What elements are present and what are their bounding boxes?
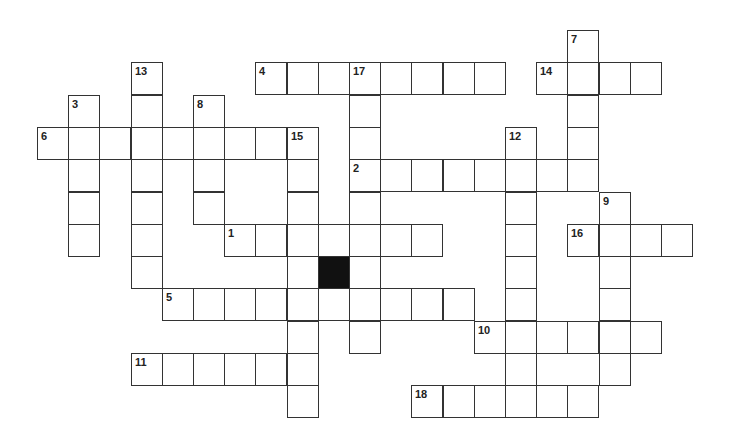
letter-input[interactable] — [506, 322, 536, 353]
grid-cell[interactable] — [318, 224, 350, 257]
letter-input[interactable] — [506, 257, 536, 288]
letter-input[interactable] — [288, 128, 318, 159]
letter-input[interactable] — [412, 63, 442, 94]
grid-cell[interactable] — [287, 353, 319, 386]
letter-input[interactable] — [600, 225, 630, 256]
grid-cell[interactable] — [68, 192, 100, 225]
grid-cell[interactable] — [599, 321, 631, 354]
letter-input[interactable] — [412, 289, 442, 320]
grid-cell[interactable] — [505, 256, 537, 289]
letter-input[interactable] — [506, 160, 536, 191]
letter-input[interactable] — [132, 225, 162, 256]
grid-cell[interactable]: 15 — [287, 127, 319, 160]
grid-cell[interactable] — [411, 224, 443, 257]
grid-cell[interactable] — [411, 62, 443, 95]
letter-input[interactable] — [506, 289, 536, 320]
grid-cell[interactable] — [131, 127, 163, 160]
letter-input[interactable] — [288, 63, 318, 94]
letter-input[interactable] — [132, 128, 162, 159]
grid-cell[interactable] — [536, 321, 568, 354]
grid-cell[interactable] — [349, 224, 381, 257]
letter-input[interactable] — [350, 257, 380, 288]
letter-input[interactable] — [256, 289, 286, 320]
grid-cell[interactable] — [443, 159, 475, 192]
letter-input[interactable] — [350, 225, 380, 256]
letter-input[interactable] — [100, 128, 130, 159]
grid-cell[interactable] — [505, 192, 537, 225]
grid-cell[interactable] — [255, 353, 287, 386]
grid-cell[interactable]: 14 — [536, 62, 568, 95]
grid-cell[interactable]: 12 — [505, 127, 537, 160]
letter-input[interactable] — [600, 257, 630, 288]
letter-input[interactable] — [600, 322, 630, 353]
grid-cell[interactable]: 4 — [255, 62, 287, 95]
letter-input[interactable] — [412, 160, 442, 191]
letter-input[interactable] — [444, 386, 474, 417]
grid-cell[interactable]: 17 — [349, 62, 381, 95]
letter-input[interactable] — [225, 128, 255, 159]
letter-input[interactable] — [506, 386, 536, 417]
letter-input[interactable] — [288, 386, 318, 417]
grid-cell[interactable] — [318, 62, 350, 95]
letter-input[interactable] — [444, 289, 474, 320]
letter-input[interactable] — [350, 160, 380, 191]
grid-cell[interactable] — [411, 159, 443, 192]
grid-cell[interactable] — [193, 159, 225, 192]
letter-input[interactable] — [38, 128, 68, 159]
letter-input[interactable] — [444, 160, 474, 191]
letter-input[interactable] — [288, 257, 318, 288]
letter-input[interactable] — [194, 354, 224, 385]
grid-cell[interactable] — [131, 159, 163, 192]
grid-cell[interactable] — [287, 192, 319, 225]
letter-input[interactable] — [163, 354, 193, 385]
letter-input[interactable] — [350, 322, 380, 353]
grid-cell[interactable] — [193, 288, 225, 321]
letter-input[interactable] — [475, 160, 505, 191]
grid-cell[interactable] — [380, 159, 412, 192]
letter-input[interactable] — [568, 96, 598, 127]
grid-cell[interactable] — [131, 192, 163, 225]
letter-input[interactable] — [225, 354, 255, 385]
letter-input[interactable] — [475, 322, 505, 353]
letter-input[interactable] — [537, 322, 567, 353]
grid-cell[interactable] — [162, 127, 194, 160]
letter-input[interactable] — [194, 128, 224, 159]
grid-cell[interactable] — [630, 321, 662, 354]
grid-cell[interactable] — [287, 288, 319, 321]
grid-cell[interactable] — [287, 62, 319, 95]
grid-cell[interactable] — [380, 288, 412, 321]
grid-cell[interactable] — [255, 127, 287, 160]
letter-input[interactable] — [69, 128, 99, 159]
grid-cell[interactable] — [68, 159, 100, 192]
letter-input[interactable] — [568, 128, 598, 159]
letter-input[interactable] — [225, 225, 255, 256]
grid-cell[interactable] — [224, 127, 256, 160]
letter-input[interactable] — [132, 193, 162, 224]
grid-cell[interactable] — [474, 62, 506, 95]
grid-cell[interactable]: 11 — [131, 353, 163, 386]
grid-cell[interactable]: 8 — [193, 95, 225, 128]
grid-cell[interactable] — [411, 288, 443, 321]
grid-cell[interactable] — [474, 159, 506, 192]
grid-cell[interactable]: 7 — [567, 30, 599, 63]
grid-cell[interactable]: 13 — [131, 62, 163, 95]
grid-cell[interactable] — [505, 224, 537, 257]
letter-input[interactable] — [537, 160, 567, 191]
grid-cell[interactable] — [349, 127, 381, 160]
grid-cell[interactable] — [131, 224, 163, 257]
letter-input[interactable] — [163, 128, 193, 159]
letter-input[interactable] — [225, 289, 255, 320]
grid-cell[interactable] — [162, 353, 194, 386]
letter-input[interactable] — [288, 322, 318, 353]
letter-input[interactable] — [631, 225, 661, 256]
letter-input[interactable] — [350, 128, 380, 159]
letter-input[interactable] — [319, 289, 349, 320]
grid-cell[interactable]: 10 — [474, 321, 506, 354]
grid-cell[interactable] — [567, 95, 599, 128]
grid-cell[interactable] — [567, 321, 599, 354]
grid-cell[interactable] — [567, 127, 599, 160]
letter-input[interactable] — [381, 63, 411, 94]
grid-cell[interactable] — [599, 353, 631, 386]
letter-input[interactable] — [256, 63, 286, 94]
grid-cell[interactable] — [536, 159, 568, 192]
